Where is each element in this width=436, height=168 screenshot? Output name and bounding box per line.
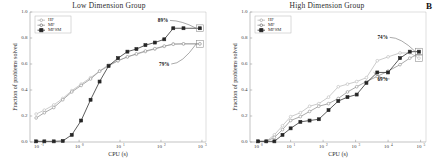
svg-text:10: 10 — [34, 144, 40, 149]
chart-plot-area: 0.00.20.40.60.81.0100101102103104105CPU … — [218, 0, 436, 168]
svg-text:10: 10 — [319, 144, 325, 149]
chart-plot-area: 0.00.20.40.60.81.010-1100101102103CPU (s… — [0, 0, 218, 168]
x-axis-title: CPU (s) — [108, 151, 128, 158]
y-tick-label: 0.8 — [241, 35, 248, 40]
y-tick-label: 1.0 — [21, 9, 28, 14]
svg-text:0: 0 — [261, 143, 263, 147]
svg-text:10: 10 — [198, 144, 204, 149]
annotation-percentage: 69% — [377, 76, 387, 82]
y-tick-label: 0.0 — [21, 139, 28, 144]
svg-text:5: 5 — [424, 143, 426, 147]
svg-text:10: 10 — [384, 144, 390, 149]
x-tick-label: 100 — [75, 143, 84, 149]
svg-text:10: 10 — [352, 144, 358, 149]
x-tick-label: 102 — [319, 143, 328, 149]
legend-label: MFSM — [268, 27, 281, 32]
x-tick-label: 101 — [287, 143, 296, 149]
svg-text:1: 1 — [294, 143, 296, 147]
svg-text:10: 10 — [254, 144, 260, 149]
svg-text:3: 3 — [205, 143, 207, 147]
svg-text:3: 3 — [359, 143, 361, 147]
y-tick-label: 0.4 — [241, 87, 248, 92]
x-axis-title: CPU (s) — [328, 151, 348, 158]
annotation-leader — [171, 44, 196, 64]
y-tick-label: 0.4 — [21, 87, 28, 92]
svg-text:10: 10 — [157, 144, 163, 149]
svg-text:10: 10 — [75, 144, 81, 149]
figure-container: Low Dimension Group 0.00.20.40.60.81.010… — [0, 0, 436, 168]
x-tick-label: 104 — [384, 143, 393, 149]
svg-text:-1: -1 — [41, 143, 44, 147]
series-mf — [35, 43, 201, 120]
svg-text:10: 10 — [116, 144, 122, 149]
panel-low-dimension: Low Dimension Group 0.00.20.40.60.81.010… — [0, 0, 218, 168]
svg-text:10: 10 — [287, 144, 293, 149]
svg-text:2: 2 — [326, 143, 328, 147]
x-tick-label: 105 — [416, 143, 425, 149]
legend-item-mfsm[interactable]: MFSM — [38, 27, 62, 32]
y-tick-label: 0.2 — [241, 113, 248, 118]
x-tick-label: 101 — [116, 143, 125, 149]
annotation-percentage: 89% — [158, 17, 168, 23]
y-axis-title: Fraction of problems solved — [12, 43, 18, 111]
y-tick-label: 0.0 — [241, 139, 248, 144]
annotation-percentage: 79% — [159, 61, 169, 67]
legend-item-mfsm[interactable]: MFSM — [258, 27, 282, 32]
x-tick-label: 103 — [198, 143, 207, 149]
svg-text:0: 0 — [82, 143, 84, 147]
annotation-percentage: 74% — [377, 34, 387, 40]
svg-text:4: 4 — [391, 143, 393, 147]
y-axis-title: Fraction of problems solved — [232, 43, 238, 111]
svg-text:1: 1 — [123, 143, 125, 147]
panel-high-dimension: High Dimension Group B 0.00.20.40.60.81.… — [218, 0, 436, 168]
x-tick-label: 10-1 — [34, 143, 44, 149]
y-tick-label: 1.0 — [241, 9, 248, 14]
svg-text:10: 10 — [416, 144, 422, 149]
x-tick-label: 103 — [352, 143, 361, 149]
x-tick-label: 102 — [157, 143, 166, 149]
series-mf — [257, 52, 421, 142]
series-hf — [35, 43, 201, 116]
y-tick-label: 0.2 — [21, 113, 28, 118]
y-tick-label: 0.6 — [21, 61, 28, 66]
legend-label: MFSM — [48, 27, 61, 32]
y-tick-label: 0.6 — [241, 61, 248, 66]
y-tick-label: 0.8 — [21, 35, 28, 40]
annotation-leader — [390, 37, 416, 51]
svg-text:2: 2 — [164, 143, 166, 147]
x-tick-label: 100 — [254, 143, 263, 149]
